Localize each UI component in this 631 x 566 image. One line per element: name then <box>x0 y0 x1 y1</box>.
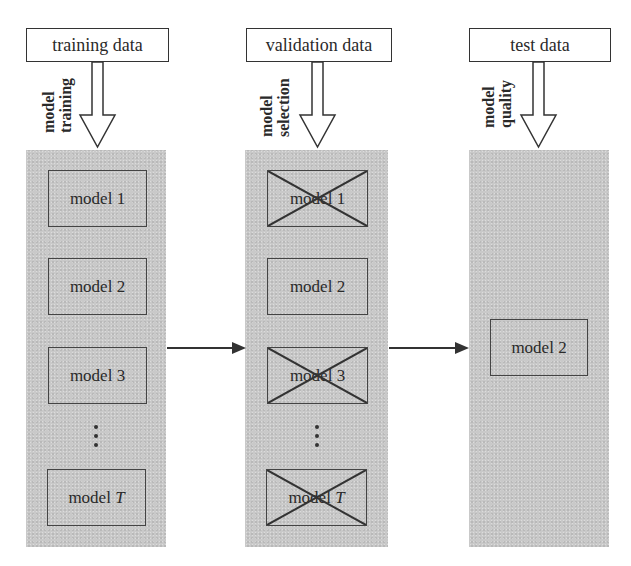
model-index: 3 <box>117 366 126 386</box>
validation-model-3-rejected: model 3 <box>267 347 368 404</box>
model-prefix: model <box>511 338 554 358</box>
validation-model-1-rejected: model 1 <box>267 170 368 227</box>
training-model-2: model 2 <box>48 258 147 315</box>
right-arrow-icon <box>167 342 246 354</box>
cross-icon <box>268 348 367 403</box>
model-prefix: model <box>70 366 113 386</box>
training-model-t: model T <box>47 469 146 526</box>
down-arrow-icon <box>80 62 115 147</box>
cross-icon <box>267 470 366 525</box>
down-arrow-icon <box>521 62 556 147</box>
model-prefix: model <box>70 277 113 297</box>
model-index: 2 <box>117 277 126 297</box>
ellipsis-icon <box>94 425 98 452</box>
model-prefix: model <box>68 488 111 508</box>
validation-model-t-rejected: model T <box>266 469 367 526</box>
cross-icon <box>268 171 367 226</box>
model-index: 2 <box>558 338 567 358</box>
model-prefix: model <box>70 189 113 209</box>
model-index: T <box>115 488 124 508</box>
validation-model-2-selected: model 2 <box>267 258 368 315</box>
training-model-1: model 1 <box>48 170 147 227</box>
model-index: 2 <box>337 277 346 297</box>
right-arrow-icon <box>389 342 469 354</box>
test-model-2: model 2 <box>490 319 588 376</box>
model-prefix: model <box>290 277 333 297</box>
down-arrow-icon <box>300 62 335 147</box>
training-model-3: model 3 <box>48 347 147 404</box>
ellipsis-icon <box>315 425 319 452</box>
model-index: 1 <box>117 189 126 209</box>
